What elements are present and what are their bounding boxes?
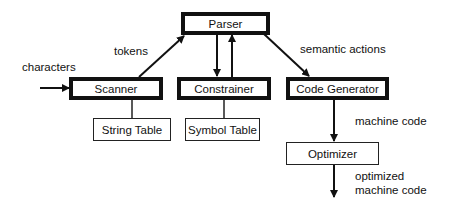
string-table-node: String Table bbox=[93, 118, 171, 141]
optimizer-node: Optimizer bbox=[286, 142, 379, 165]
string-table-label: String Table bbox=[102, 124, 163, 136]
machine-code-label: machine code bbox=[355, 115, 427, 128]
optimized-machine-code-label-line1: optimized bbox=[355, 170, 404, 183]
code-generator-node: Code Generator bbox=[286, 77, 389, 100]
parser-node: Parser bbox=[181, 12, 270, 35]
scanner-node: Scanner bbox=[69, 77, 163, 100]
symbol-table-node: Symbol Table bbox=[185, 118, 260, 141]
parser-label: Parser bbox=[209, 18, 243, 30]
characters-label: characters bbox=[22, 61, 76, 74]
scanner-label: Scanner bbox=[95, 83, 138, 95]
optimized-machine-code-label-line2: machine code bbox=[355, 184, 427, 197]
code-generator-label: Code Generator bbox=[296, 83, 378, 95]
tokens-label: tokens bbox=[114, 45, 148, 58]
symbol-table-label: Symbol Table bbox=[188, 124, 257, 136]
constrainer-label: Constrainer bbox=[194, 83, 253, 95]
semantic-actions-label: semantic actions bbox=[300, 43, 386, 56]
optimizer-label: Optimizer bbox=[308, 148, 357, 160]
constrainer-node: Constrainer bbox=[177, 77, 271, 100]
